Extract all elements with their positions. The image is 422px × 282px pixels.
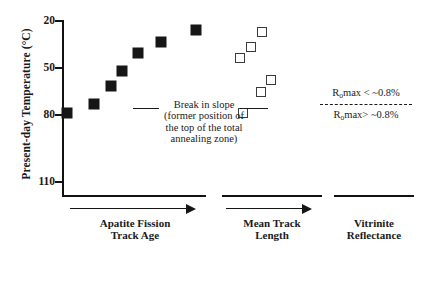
y-axis-label: Present-day Temperature (°C): [20, 4, 32, 204]
vitrinite-spacer: [334, 202, 414, 216]
data-point-filled-square-2: [106, 81, 117, 92]
break-in-slope-annotation: Break in slope (former position of the t…: [152, 99, 256, 145]
y-tick-label-80: 80: [25, 108, 55, 120]
legend-entry-above: Romax < ~0.8%: [316, 86, 416, 100]
mean-track-length-caption: Mean Track Length: [226, 217, 318, 242]
x-axis-line-mean-track-length: [222, 195, 322, 197]
legend: Romax < ~0.8% Romax> ~0.8%: [316, 86, 416, 122]
vitrinite-caption-line-1: Vitrinite: [334, 217, 414, 229]
x-axis-group-vitrinite-reflectance: Vitrinite Reflectance: [334, 202, 414, 242]
mean-track-length-arrow-head: [302, 204, 312, 214]
mean-track-length-caption-line-1: Mean Track: [226, 217, 318, 229]
data-point-open-square-4: [246, 42, 256, 52]
data-point-open-square-2: [266, 75, 276, 85]
y-tick-label-50: 50: [25, 61, 55, 73]
annotation-line-3: the top of the total: [152, 122, 256, 133]
y-tick-mark-50: [55, 67, 63, 69]
legend-entry-below: Romax> ~0.8%: [316, 108, 416, 122]
data-point-open-square-1: [256, 87, 266, 97]
legend-above-suffix: max < ~0.8%: [343, 87, 400, 98]
data-point-filled-square-4: [133, 48, 144, 59]
mean-track-length-caption-line-2: Length: [226, 229, 318, 241]
legend-below-prefix: R: [334, 109, 341, 120]
x-axis-line-vitrinite: [334, 195, 414, 197]
data-point-filled-square-1: [89, 99, 100, 110]
mean-track-length-arrow: [226, 202, 318, 216]
legend-above-subscript: o: [339, 91, 343, 100]
annotation-line-1: Break in slope: [152, 99, 256, 110]
vitrinite-caption-line-2: Reflectance: [334, 229, 414, 241]
x-axis-line-apatite: [62, 195, 206, 197]
figure-container: Present-day Temperature (°C) 205080110 B…: [0, 0, 422, 282]
apatite-arrow: [70, 202, 200, 216]
y-tick-label-20: 20: [25, 14, 55, 26]
x-axis-group-mean-track-length: Mean Track Length: [226, 202, 318, 242]
data-point-open-square-3: [235, 53, 245, 63]
mean-track-length-arrow-shaft: [226, 208, 304, 209]
apatite-caption: Apatite Fission Track Age: [70, 217, 200, 242]
apatite-caption-line-1: Apatite Fission: [70, 217, 200, 229]
data-point-filled-square-5: [156, 37, 167, 48]
data-point-filled-square-6: [191, 25, 202, 36]
annotation-line-4: annealing zone): [152, 133, 256, 144]
legend-below-subscript: o: [341, 113, 345, 122]
y-tick-mark-20: [55, 20, 63, 22]
x-axis-group-apatite-fission-track-age: Apatite Fission Track Age: [70, 202, 200, 242]
legend-below-suffix: max> ~0.8%: [344, 109, 398, 120]
y-tick-label-110: 110: [25, 175, 55, 187]
vitrinite-caption: Vitrinite Reflectance: [334, 217, 414, 242]
data-point-filled-square-0: [62, 108, 73, 119]
apatite-arrow-head: [186, 204, 196, 214]
apatite-caption-line-2: Track Age: [70, 229, 200, 241]
legend-dashed-divider: [320, 104, 412, 105]
annotation-line-2: (former position of: [152, 110, 256, 121]
data-point-open-square-5: [257, 27, 267, 37]
y-tick-mark-110: [55, 181, 63, 183]
apatite-arrow-shaft: [70, 208, 188, 209]
data-point-filled-square-3: [117, 66, 128, 77]
